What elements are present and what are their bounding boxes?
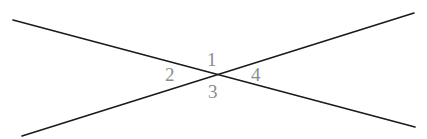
angle-label-3: 3: [208, 82, 218, 101]
angle-label-2: 2: [165, 65, 175, 84]
angle-diagram-figure: 1 2 3 4: [0, 0, 427, 139]
angle-label-1: 1: [207, 50, 217, 69]
angle-label-4: 4: [251, 65, 261, 84]
